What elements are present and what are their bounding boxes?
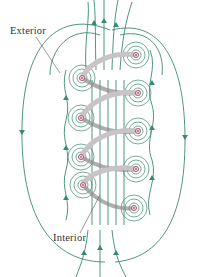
coil-turns: [81, 54, 138, 208]
interior-label: Interior: [53, 232, 86, 243]
solenoid-field-diagram: [0, 0, 199, 277]
exterior-label: Exterior: [10, 25, 46, 36]
